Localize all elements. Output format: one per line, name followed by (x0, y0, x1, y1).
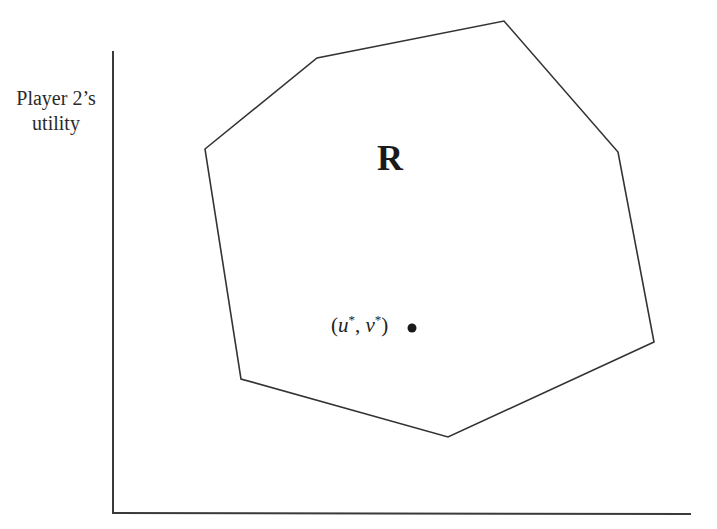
x-axis (112, 513, 691, 514)
y-axis-label-line2: utility (0, 111, 112, 136)
y-axis-label-line1: Player 2’s (0, 86, 112, 111)
utility-diagram: Player 2’s utility R (u*, v*) (0, 0, 717, 529)
diagram-canvas (0, 0, 717, 529)
close-paren: ) (381, 313, 388, 337)
point-v: v (366, 313, 375, 337)
point-marker (408, 324, 417, 333)
y-axis-label: Player 2’s utility (0, 86, 112, 136)
point-label: (u*, v*) (331, 312, 388, 338)
point-u: u (338, 313, 349, 337)
region-r-polygon (205, 21, 654, 437)
open-paren: ( (331, 313, 338, 337)
region-label: R (377, 137, 403, 179)
comma: , (355, 313, 366, 337)
